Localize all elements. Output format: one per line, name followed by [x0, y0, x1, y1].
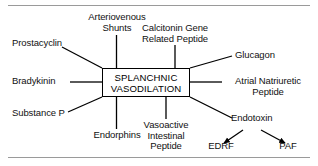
node-atrial-natriuretic-line-2: Peptide	[224, 87, 312, 98]
center-node-line-1: SPLANCHNIC	[115, 72, 178, 83]
node-prostacyclin-line-1: Prostacyclin	[12, 38, 62, 49]
node-glucagon: Glucagon	[235, 50, 275, 61]
center-node-splanchnic-vasodilation: SPLANCHNIC VASODILATION	[102, 68, 190, 97]
node-paf-line-1: PAF	[266, 141, 310, 152]
node-endotoxin-line-1: Endotoxin	[231, 113, 272, 124]
node-endotoxin: Endotoxin	[231, 113, 272, 124]
node-calcitonin-line-1: Calcitonin Gene	[131, 23, 219, 34]
node-vip-line-3: Peptide	[127, 141, 205, 152]
node-vasoactive-intestinal-peptide: Vasoactive Intestinal Peptide	[127, 120, 205, 152]
node-substance-p: Substance P	[12, 108, 65, 119]
node-atrial-natriuretic-line-1: Atrial Natriuretic	[224, 76, 312, 87]
splanchnic-vasodilation-diagram: SPLANCHNIC VASODILATION Arteriovenous Sh…	[0, 0, 318, 166]
node-substance-p-line-1: Substance P	[12, 108, 65, 119]
node-prostacyclin: Prostacyclin	[12, 38, 62, 49]
node-paf: PAF	[266, 141, 310, 152]
node-atrial-natriuretic-peptide: Atrial Natriuretic Peptide	[224, 76, 312, 97]
node-bradykinin: Bradykinin	[12, 76, 55, 87]
node-calcitonin-gene-related-peptide: Calcitonin Gene Related Peptide	[131, 23, 219, 44]
node-bradykinin-line-1: Bradykinin	[12, 76, 55, 87]
node-edrf: EDRF	[196, 141, 246, 152]
node-vip-line-1: Vasoactive	[127, 120, 205, 131]
node-calcitonin-line-2: Related Peptide	[131, 34, 219, 45]
node-edrf-line-1: EDRF	[196, 141, 246, 152]
center-node-line-2: VASODILATION	[111, 83, 182, 94]
node-arteriovenous-shunts-line-1: Arteriovenous	[73, 12, 161, 23]
node-glucagon-line-1: Glucagon	[235, 50, 275, 61]
